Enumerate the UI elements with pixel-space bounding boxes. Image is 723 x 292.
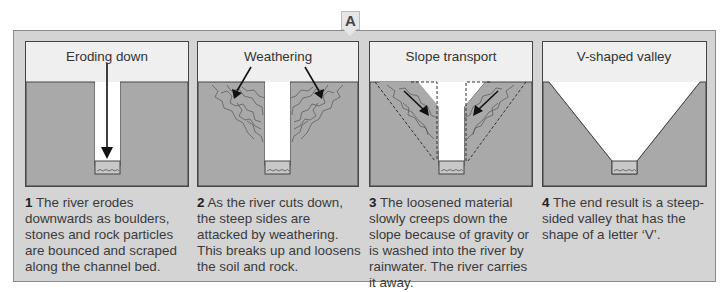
panel-v-shaped-valley: V-shaped valley <box>542 41 707 187</box>
panel-title: Eroding down <box>66 49 148 64</box>
panel-slope-transport: Slope transport <box>369 41 533 187</box>
panel-title: V-shaped valley <box>577 49 672 64</box>
caption-2: 2 As the river cuts down, the steep side… <box>197 195 362 275</box>
v-shaped-valley-illustration: V-shaped valley <box>542 41 707 187</box>
caption-text: The loosened material slowly creeps down… <box>369 195 529 290</box>
panel-weathering: Weathering <box>197 41 359 187</box>
marker-pointer-icon <box>343 29 357 36</box>
caption-3: 3 The loosened material slowly creeps do… <box>369 195 534 291</box>
step-number: 4 <box>542 195 549 210</box>
slope-transport-illustration: Slope transport <box>369 41 533 187</box>
weathering-illustration: Weathering <box>197 41 359 187</box>
caption-4: 4 The end result is a steep-sided valley… <box>542 195 707 243</box>
caption-text: As the river cuts down, the steep sides … <box>197 195 361 274</box>
panel-title: Slope transport <box>406 49 497 64</box>
caption-1: 1 The river erodes downwards as boulders… <box>25 195 190 275</box>
caption-text: The end result is a steep-sided valley t… <box>542 195 704 242</box>
panel-eroding-down: Eroding down <box>25 41 189 187</box>
step-number: 1 <box>25 195 32 210</box>
eroding-down-illustration: Eroding down <box>25 41 189 187</box>
figure-marker: A <box>341 11 360 30</box>
caption-text: The river erodes downwards as boulders, … <box>25 195 177 274</box>
panel-title: Weathering <box>244 49 312 64</box>
step-number: 2 <box>197 195 204 210</box>
step-number: 3 <box>369 195 376 210</box>
